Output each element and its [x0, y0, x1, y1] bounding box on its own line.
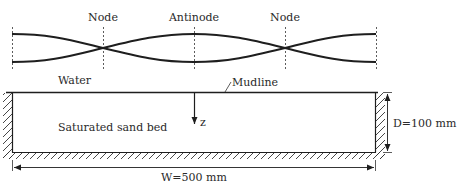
water-label: Water [58, 74, 92, 87]
wave-lower-curve [12, 34, 376, 62]
sand-bed-diagram: Node Antinode Node Water Mudline Saturat… [0, 0, 464, 186]
left-wall-hatch [3, 93, 12, 159]
depth-dimension: D=100 mm [383, 93, 457, 153]
node-left-label: Node [88, 11, 118, 24]
width-label: W=500 mm [161, 171, 227, 184]
right-wall-hatch [376, 93, 385, 159]
z-axis: z [195, 93, 207, 129]
standing-wave: Node Antinode Node [12, 11, 377, 69]
node-right-label: Node [270, 11, 300, 24]
depth-label: D=100 mm [393, 117, 457, 130]
sand-bed-label: Saturated sand bed [58, 121, 167, 134]
mudline-label: Mudline [232, 76, 278, 89]
wave-upper-curve [12, 34, 376, 62]
z-axis-label: z [200, 116, 206, 129]
mudline-leader [225, 82, 231, 92]
antinode-label: Antinode [168, 11, 219, 24]
width-dimension: W=500 mm [13, 160, 376, 184]
